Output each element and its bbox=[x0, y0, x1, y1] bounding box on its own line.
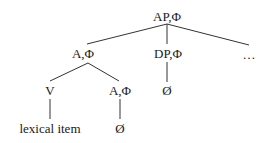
edge-a-a bbox=[88, 63, 119, 81]
node-lexical-item: lexical item bbox=[19, 122, 80, 135]
node-dp-phi: DP,Φ bbox=[154, 47, 182, 60]
node-a-phi-lower: A,Φ bbox=[109, 84, 131, 97]
edge-root-a bbox=[87, 24, 167, 44]
node-a-phi-upper: A,Φ bbox=[72, 47, 94, 60]
syntax-tree-diagram: AP,Φ A,Φ DP,Φ … V A,Φ Ø lexical item Ø bbox=[0, 0, 264, 143]
node-ap-phi: AP,Φ bbox=[153, 10, 181, 23]
edge-a-v bbox=[50, 63, 88, 81]
node-a-empty: Ø bbox=[115, 122, 124, 135]
node-ellipsis: … bbox=[243, 48, 256, 61]
edge-root-ellipsis bbox=[167, 24, 249, 45]
node-v: V bbox=[45, 84, 54, 97]
node-dp-empty: Ø bbox=[162, 84, 171, 97]
